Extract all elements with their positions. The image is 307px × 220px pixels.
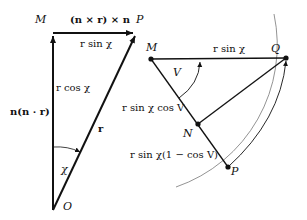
label-r-sin-chi-one-minus-cos-V: r sin χ(1 − cos V) (130, 150, 218, 160)
right-triangle (148, 14, 288, 187)
line-NQ (198, 58, 286, 124)
label-r-sin-chi-left: r sin χ (80, 39, 112, 49)
point-N-dot (195, 121, 200, 126)
line-MQ (151, 58, 286, 59)
label-r-vector: r (98, 124, 103, 134)
label-point-P-left: P (136, 14, 143, 25)
label-n-n-dot-r: n(n · r) (10, 107, 50, 117)
label-r-cos-chi: r cos χ (56, 83, 90, 93)
angle-chi-arc (53, 147, 80, 152)
label-point-P-right: P (231, 166, 238, 177)
label-point-O: O (63, 201, 72, 212)
left-triangle (53, 33, 135, 210)
label-r-sin-chi-cos-V: r sin χ cos V (122, 103, 184, 113)
label-point-N: N (183, 128, 193, 139)
label-point-M-right: M (146, 42, 157, 53)
label-point-M-left: M (35, 14, 46, 25)
point-M-dot (148, 56, 153, 61)
label-top-vector: (n × r) × n (70, 15, 130, 25)
label-angle-V: V (173, 67, 181, 78)
angle-V-arc (179, 62, 200, 98)
diagram-canvas: M P O (n × r) × n r sin χ r cos χ n(n · … (0, 0, 307, 220)
point-Q-dot (283, 55, 288, 60)
outer-circle-arc (176, 14, 277, 187)
arc-P-to-Q (228, 61, 286, 167)
label-point-Q: Q (271, 43, 280, 54)
label-angle-chi: χ (61, 164, 68, 175)
point-P-dot (225, 164, 230, 169)
label-r-sin-chi-right: r sin χ (213, 44, 245, 54)
vector-r (53, 36, 135, 210)
